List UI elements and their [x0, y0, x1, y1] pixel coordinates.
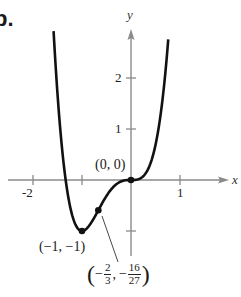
y-neg-sign: −	[119, 267, 127, 281]
close-paren: )	[142, 262, 150, 286]
key-points	[79, 177, 135, 235]
origin-point-label: (0, 0)	[95, 158, 125, 172]
inflection-point-label: ( − 2 3 , − 16 27 )	[87, 262, 150, 286]
plot-area	[0, 0, 241, 297]
comma: ,	[112, 268, 116, 282]
key-point	[79, 228, 86, 235]
x-numerator: 2	[104, 262, 112, 275]
key-point	[128, 177, 135, 184]
x-tick-label-1: 1	[177, 186, 184, 199]
key-point	[95, 207, 102, 214]
x-tick-label-neg2-text: -2	[22, 185, 33, 200]
y-tick-label-2: 2	[115, 71, 122, 84]
y-numerator: 16	[128, 262, 141, 275]
graph-figure: b. y x 2 1 -2 1 (0, 0) (−1, −1) ( − 2 3 …	[0, 0, 241, 297]
inflection-leader-line	[102, 216, 118, 262]
x-tick-label-neg2: -2	[22, 186, 33, 199]
x-neg-sign: −	[95, 267, 103, 281]
minimum-point-label: (−1, −1)	[39, 240, 85, 254]
x-fraction: 2 3	[104, 262, 112, 286]
part-label: b.	[0, 8, 14, 30]
open-paren: (	[87, 262, 95, 286]
function-curve	[54, 31, 169, 231]
y-denominator: 27	[129, 275, 140, 287]
x-axis-label: x	[232, 173, 238, 186]
x-denominator: 3	[105, 275, 111, 287]
y-tick-label-1: 1	[115, 122, 122, 135]
y-axis-label: y	[127, 8, 133, 21]
y-fraction: 16 27	[128, 262, 141, 286]
